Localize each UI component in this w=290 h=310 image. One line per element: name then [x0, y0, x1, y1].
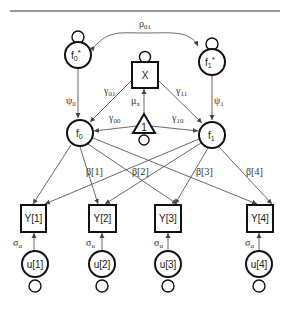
node-y3: Y[3]	[155, 205, 181, 232]
svg-text:1: 1	[141, 122, 147, 133]
node-f1-star: f1*	[199, 49, 225, 75]
label-beta3: β[3]	[196, 166, 213, 177]
node-u4: u[4]	[246, 251, 272, 277]
svg-text:u[3]: u[3]	[160, 259, 177, 270]
covariance-arc-rho01	[95, 33, 198, 46]
label-gamma00: γ00	[108, 112, 121, 125]
label-gamma11: γ11	[175, 85, 188, 98]
variance-loop-u4	[253, 280, 265, 292]
label-gamma01: γ01	[103, 85, 116, 98]
svg-text:X: X	[142, 70, 149, 81]
node-u1: u[1]	[22, 251, 48, 277]
svg-text:Y[3]: Y[3]	[159, 213, 177, 224]
label-beta2: β[2]	[132, 166, 149, 177]
label-sigma-u1: σu	[13, 237, 22, 250]
label-gamma10: γ10	[171, 112, 184, 125]
label-beta4: β[4]	[246, 166, 263, 177]
label-sigma-u4: σu	[245, 237, 254, 250]
svg-text:Y[2]: Y[2]	[94, 213, 112, 224]
label-beta1: β[1]	[86, 166, 103, 177]
node-f1: f1	[199, 122, 225, 148]
variance-loop-u1	[29, 280, 41, 292]
node-f0-star: f0*	[65, 42, 91, 68]
label-mux: μx	[131, 95, 140, 108]
svg-text:Y[1]: Y[1]	[25, 213, 43, 224]
svg-text:Y[4]: Y[4]	[251, 213, 269, 224]
variance-loop-u3	[162, 280, 174, 292]
variance-loop-constant	[139, 135, 149, 145]
node-y1: Y[1]	[21, 205, 46, 232]
node-f0: f0	[67, 120, 93, 146]
node-u3: u[3]	[155, 251, 181, 277]
node-u2: u[2]	[89, 251, 115, 277]
label-sigma-u2: σu	[86, 237, 95, 250]
label-rho01: ρ01	[139, 18, 152, 31]
label-psi1: ψ1	[214, 95, 224, 108]
label-sigma-u3: σu	[154, 237, 163, 250]
variance-loop-u2	[96, 280, 108, 292]
path-diagram: ρ01 ψ0 ψ1 γ01 γ11 μx γ00 γ10 β[1] β[2] β…	[0, 0, 290, 310]
svg-text:u[2]: u[2]	[94, 259, 111, 270]
node-y4: Y[4]	[247, 205, 273, 232]
svg-text:u[4]: u[4]	[251, 259, 268, 270]
edge-constant-f0	[94, 126, 137, 131]
edge-f1-y2	[105, 143, 201, 204]
label-psi0: ψ0	[66, 95, 76, 108]
node-y2: Y[2]	[89, 205, 116, 232]
edge-f0-y4	[93, 138, 257, 204]
node-x: X	[132, 62, 158, 88]
edge-constant-f1	[151, 126, 198, 131]
node-constant-triangle: 1	[133, 114, 155, 133]
svg-text:u[1]: u[1]	[27, 259, 44, 270]
variance-loop-x	[140, 52, 151, 63]
